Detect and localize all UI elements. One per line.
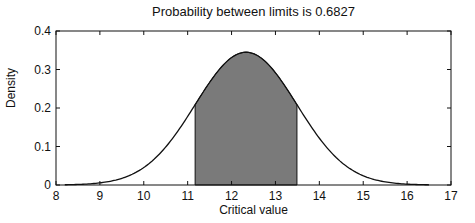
y-tick-label: 0: [44, 178, 51, 192]
x-tick-label: 12: [225, 189, 239, 203]
x-tick-label: 14: [313, 189, 327, 203]
x-tick-label: 16: [400, 189, 414, 203]
x-tick-label: 9: [97, 189, 104, 203]
y-tick-label: 0.4: [34, 24, 51, 38]
density-plot: 891011121314151617 00.10.20.30.4: [0, 0, 475, 223]
shaded-probability-region: [195, 52, 297, 185]
x-tick-label: 13: [269, 189, 283, 203]
y-axis-label: Density: [4, 68, 18, 108]
y-tick-label: 0.1: [34, 140, 51, 154]
x-tick-label: 10: [137, 189, 151, 203]
y-tick-label: 0.3: [34, 63, 51, 77]
x-tick-label: 15: [357, 189, 371, 203]
x-tick-label: 11: [181, 189, 194, 203]
x-tick-label: 17: [444, 189, 458, 203]
x-axis-label: Critical value: [56, 203, 451, 217]
y-tick-label: 0.2: [34, 101, 51, 115]
x-tick-label: 8: [53, 189, 60, 203]
